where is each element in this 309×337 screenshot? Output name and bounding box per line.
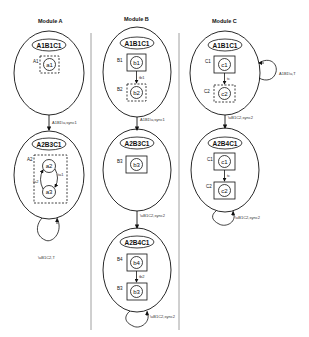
module-a: Module A A1B1C1 A1 a1 A1B1\u,sync1 A2B3C… [14, 18, 84, 260]
state-name: A1B1C1 [37, 42, 62, 49]
svg-text:tb1: tb1 [139, 75, 145, 80]
svg-text:A2B3C1: A2B3C1 [37, 141, 62, 148]
svg-text:B2: B2 [117, 87, 123, 92]
svg-text:a3: a3 [46, 189, 53, 195]
module-a-title: Module A [38, 18, 63, 24]
module-b: Module B A1B1C1 B1 b1 tb1 B2 b2 A1B1\u,s… [103, 16, 176, 327]
svg-text:\uB1C2,sync2: \uB1C2,sync2 [235, 215, 261, 220]
svg-text:A1: A1 [33, 59, 39, 64]
svg-text:a1: a1 [46, 62, 53, 68]
svg-text:B3: B3 [117, 286, 123, 291]
svg-text:A1B1\u,sync1: A1B1\u,sync1 [140, 117, 165, 122]
svg-text:\uB1C2,sync2: \uB1C2,sync2 [228, 115, 254, 120]
svg-text:C1: C1 [205, 59, 211, 64]
svg-text:A2: A2 [27, 157, 33, 162]
svg-text:\uB1C2,sync2: \uB1C2,sync2 [140, 213, 166, 218]
self-loop [213, 211, 235, 225]
svg-text:C1: C1 [207, 157, 213, 162]
svg-text:b2: b2 [133, 90, 140, 96]
transition-label: A1B1\u,sync1 [52, 120, 77, 125]
svg-text:C2: C2 [206, 184, 212, 189]
svg-text:A2B3C1: A2B3C1 [125, 140, 150, 147]
svg-text:tc: tc [227, 173, 230, 178]
transition-label: \uB1C2,T [38, 255, 55, 260]
self-loop [37, 218, 59, 241]
svg-text:B1: B1 [117, 58, 123, 63]
svg-text:c1: c1 [221, 62, 228, 68]
svg-text:tb2: tb2 [139, 274, 145, 279]
svg-text:A2B4C1: A2B4C1 [125, 239, 150, 246]
module-c-title: Module C [212, 18, 237, 24]
svg-text:b3: b3 [133, 162, 140, 168]
svg-text:c2: c2 [221, 188, 228, 194]
module-diagram: Module A A1B1C1 A1 a1 A1B1\u,sync1 A2B3C… [0, 0, 309, 337]
svg-text:\uB1C2,sync2: \uB1C2,sync2 [150, 314, 176, 319]
svg-text:B3: B3 [117, 159, 123, 164]
svg-text:A1B1C1: A1B1C1 [213, 42, 238, 49]
svg-text:ta1: ta1 [58, 172, 64, 177]
svg-text:A1B1\u,T: A1B1\u,T [279, 71, 296, 76]
svg-text:tc: tc [227, 76, 230, 81]
svg-text:b3: b3 [133, 289, 140, 295]
svg-text:a2: a2 [46, 163, 53, 169]
svg-text:A1B1C1: A1B1C1 [125, 40, 150, 47]
module-c: Module C A1B1C1 C1 c1 tc C2 c2 A1B1\u,T … [190, 18, 296, 225]
svg-text:ta2: ta2 [33, 179, 39, 184]
svg-text:B4: B4 [117, 257, 123, 262]
svg-text:A2B4C1: A2B4C1 [213, 140, 238, 147]
svg-text:c1: c1 [221, 159, 228, 165]
self-loop [126, 311, 148, 327]
svg-text:b1: b1 [133, 60, 140, 66]
svg-text:b4: b4 [133, 260, 140, 266]
module-b-title: Module B [124, 16, 149, 22]
svg-text:c2: c2 [221, 91, 228, 97]
svg-text:C2: C2 [204, 89, 210, 94]
